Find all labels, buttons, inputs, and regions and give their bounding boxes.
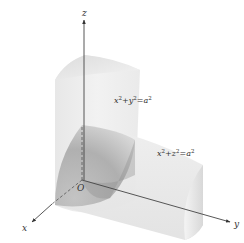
y-axis-label: y [233, 219, 240, 229]
x-axis-label: x [22, 223, 27, 233]
diagram-canvas: z y x O x2+y2=a2 x2+z2=a2 [0, 0, 244, 243]
z-axis-label: z [81, 8, 87, 18]
diagram: z y x O x2+y2=a2 x2+z2=a2 [0, 0, 244, 243]
origin-label: O [77, 183, 85, 193]
x-axis [32, 204, 52, 222]
